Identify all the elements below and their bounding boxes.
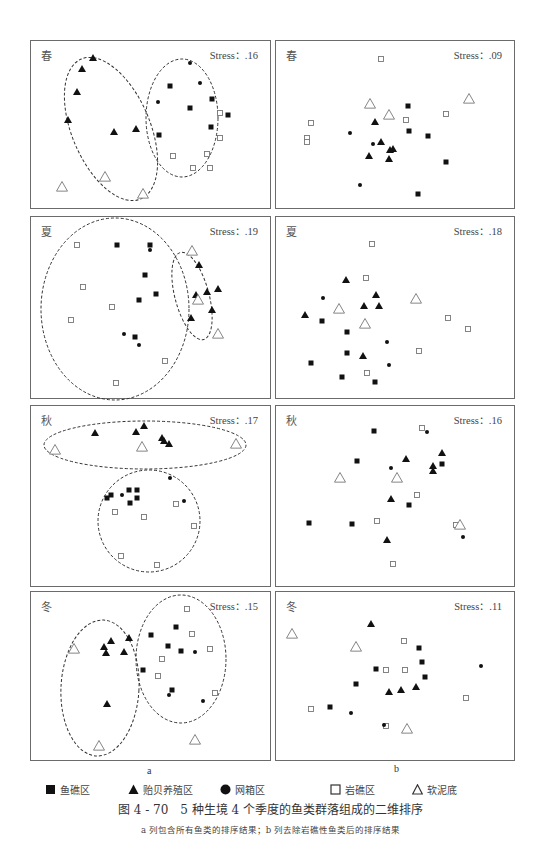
open-square-marker bbox=[446, 316, 451, 321]
stress-value: Stress：.16 bbox=[210, 47, 258, 62]
legend-item-net-cage: 网箱区 bbox=[220, 782, 265, 797]
filled-triangle-marker bbox=[383, 536, 391, 543]
open-triangle-marker bbox=[69, 644, 80, 654]
open-square-marker bbox=[213, 691, 218, 696]
filled-circle-marker bbox=[137, 343, 141, 347]
open-square-marker bbox=[155, 563, 160, 568]
legend-item-fish-reef: 鱼礁区 bbox=[45, 782, 90, 797]
filled-square-marker bbox=[115, 243, 120, 248]
open-square-marker bbox=[142, 515, 147, 520]
filled-square-marker bbox=[417, 646, 422, 651]
legend: 鱼礁区 贻贝养殖区 网箱区 岩礁区 软泥底 bbox=[0, 782, 541, 798]
filled-circle-marker bbox=[371, 142, 375, 146]
filled-circle-marker bbox=[201, 699, 205, 703]
open-triangle-marker bbox=[138, 189, 149, 199]
filled-square-marker bbox=[420, 660, 425, 665]
open-square-marker bbox=[309, 707, 314, 712]
filled-triangle-icon bbox=[128, 784, 139, 795]
open-triangle-marker bbox=[411, 294, 422, 304]
filled-square-icon bbox=[45, 784, 56, 795]
open-square-marker bbox=[309, 121, 314, 126]
filled-square-marker bbox=[373, 380, 378, 385]
open-square-marker bbox=[113, 510, 118, 515]
open-triangle-marker bbox=[231, 439, 242, 449]
panel-b-summer: 夏 Stress：.18 bbox=[275, 216, 515, 399]
panel-a-autumn: 秋 Stress：.17 bbox=[30, 405, 271, 587]
open-square-marker bbox=[305, 140, 310, 145]
panel-a-winter: 冬 Stress：.15 bbox=[30, 591, 271, 761]
open-square-marker bbox=[81, 285, 86, 290]
open-triangle-marker bbox=[360, 319, 371, 329]
open-square-marker bbox=[415, 493, 420, 498]
filled-square-marker bbox=[320, 319, 325, 324]
open-square-marker bbox=[192, 524, 197, 529]
season-label: 秋 bbox=[41, 412, 52, 428]
open-square-marker bbox=[208, 647, 213, 652]
open-square-marker bbox=[444, 112, 449, 117]
open-square-marker bbox=[365, 371, 370, 376]
filled-square-marker bbox=[135, 488, 140, 493]
open-square-marker bbox=[174, 502, 179, 507]
season-label: 夏 bbox=[286, 223, 297, 239]
open-square-marker bbox=[218, 136, 223, 141]
open-square-marker bbox=[208, 166, 213, 171]
filled-square-marker bbox=[426, 134, 431, 139]
filled-square-marker bbox=[309, 361, 314, 366]
filled-triangle-marker bbox=[412, 683, 420, 690]
filled-square-marker bbox=[416, 192, 421, 197]
scatter-plot bbox=[276, 406, 514, 586]
stress-value: Stress：.16 bbox=[454, 412, 502, 427]
stress-value: Stress：.17 bbox=[210, 412, 258, 427]
open-square-marker bbox=[163, 359, 168, 364]
panel-a-spring: 春 Stress：.16 bbox=[30, 40, 271, 209]
filled-triangle-marker bbox=[208, 306, 216, 313]
open-square-marker bbox=[466, 327, 471, 332]
filled-triangle-marker bbox=[187, 314, 195, 321]
filled-circle-marker bbox=[461, 535, 465, 539]
scatter-plot bbox=[31, 592, 270, 760]
filled-triangle-marker bbox=[397, 686, 405, 693]
open-triangle-marker bbox=[335, 473, 346, 483]
filled-triangle-marker bbox=[301, 311, 309, 318]
open-square-marker bbox=[364, 276, 369, 281]
open-triangle-marker bbox=[50, 445, 61, 455]
filled-square-marker bbox=[355, 459, 360, 464]
season-label: 秋 bbox=[286, 412, 297, 428]
filled-square-marker bbox=[354, 682, 359, 687]
open-square-marker bbox=[205, 152, 210, 157]
filled-triangle-marker bbox=[359, 352, 367, 359]
filled-square-marker bbox=[345, 351, 350, 356]
filled-square-marker bbox=[350, 522, 355, 527]
open-triangle-marker bbox=[190, 735, 201, 745]
open-square-marker bbox=[160, 657, 165, 662]
filled-triangle-marker bbox=[371, 118, 379, 125]
open-triangle-marker bbox=[213, 329, 224, 339]
filled-square-marker bbox=[440, 462, 445, 467]
filled-circle-marker bbox=[385, 340, 389, 344]
open-square-marker bbox=[218, 111, 223, 116]
season-label: 夏 bbox=[41, 223, 52, 239]
filled-square-marker bbox=[157, 133, 162, 138]
filled-triangle-marker bbox=[365, 152, 373, 159]
filled-triangle-marker bbox=[203, 288, 211, 295]
filled-circle-marker bbox=[479, 664, 483, 668]
season-label: 春 bbox=[286, 47, 297, 63]
filled-triangle-marker bbox=[195, 261, 203, 268]
filled-square-marker bbox=[328, 705, 333, 710]
filled-square-marker bbox=[143, 273, 148, 278]
open-square-marker bbox=[404, 118, 409, 123]
legend-item-rocky-reef: 岩礁区 bbox=[330, 782, 375, 797]
cluster-ellipse bbox=[164, 248, 220, 344]
filled-circle-marker bbox=[198, 81, 202, 85]
filled-square-marker bbox=[105, 496, 110, 501]
scatter-plot bbox=[31, 41, 270, 208]
open-square-marker bbox=[370, 242, 375, 247]
filled-triangle-marker bbox=[102, 649, 110, 656]
filled-triangle-marker bbox=[377, 138, 385, 145]
open-square-marker bbox=[402, 639, 407, 644]
filled-triangle-marker bbox=[107, 637, 115, 644]
open-square-marker bbox=[156, 674, 161, 679]
filled-square-marker bbox=[423, 675, 428, 680]
filled-circle-marker bbox=[156, 100, 160, 104]
filled-circle-icon bbox=[220, 784, 231, 795]
